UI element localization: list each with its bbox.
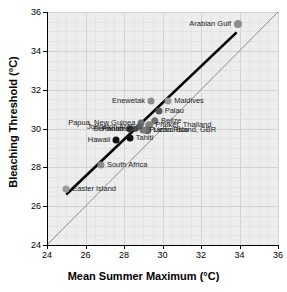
y-axis-tick (43, 12, 47, 13)
y-axis-tick (43, 129, 47, 130)
data-point (113, 137, 120, 144)
x-axis-tick-label: 26 (80, 250, 90, 260)
data-point (147, 98, 154, 105)
data-point-label: South Africa (107, 162, 147, 170)
data-point (155, 108, 162, 115)
y-axis-tick-label: 30 (23, 124, 41, 134)
y-axis-tick-label: 36 (23, 7, 41, 17)
scatter-plot-figure: Arabian GulfEnewetakMaldivesPalauBelizeP… (0, 0, 287, 292)
y-axis-tick (43, 90, 47, 91)
x-axis-tick (86, 245, 87, 249)
data-point (63, 185, 70, 192)
data-point (234, 20, 242, 28)
x-axis-tick-label: 34 (234, 250, 244, 260)
y-axis-tick (43, 245, 47, 246)
x-axis-tick-label: 32 (196, 250, 206, 260)
data-point-label: Hawaii (88, 136, 111, 144)
data-point (165, 98, 172, 105)
x-axis-tick (47, 245, 48, 249)
x-axis-tick-label: 30 (157, 250, 167, 260)
y-axis-tick-label: 24 (23, 240, 41, 250)
y-axis-title: Bleaching Threshold (°C) (7, 6, 19, 239)
x-axis-title: Mean Summer Maximum (°C) (0, 270, 287, 282)
data-point-label: Palau (165, 107, 184, 115)
y-axis-tick (43, 167, 47, 168)
data-point-label: Easter Island (72, 185, 116, 193)
data-point-label: Tahiti (136, 134, 154, 142)
y-axis-tick-label: 26 (23, 201, 41, 211)
data-point (126, 135, 133, 142)
x-axis-tick-label: 36 (273, 250, 283, 260)
data-point (97, 162, 104, 169)
data-point-label: Maldives (174, 98, 204, 106)
x-axis-tick-label: 28 (119, 250, 129, 260)
x-axis-tick-label: 24 (42, 250, 52, 260)
x-axis-tick (163, 245, 164, 249)
plot-area: Arabian GulfEnewetakMaldivesPalauBelizeP… (47, 12, 278, 245)
x-axis-tick (240, 245, 241, 249)
y-axis-line (47, 12, 48, 245)
data-point-label: Puerto Rico (149, 127, 188, 135)
y-axis-tick-label: 34 (23, 46, 41, 56)
y-axis-tick-label: 28 (23, 162, 41, 172)
y-axis-tick-label: 32 (23, 85, 41, 95)
x-axis-tick (124, 245, 125, 249)
y-axis-tick (43, 206, 47, 207)
x-axis-tick (201, 245, 202, 249)
data-point-label: Enewetak (112, 98, 145, 106)
gridline-vertical-major (278, 12, 279, 245)
data-point-label: Bermuda (93, 125, 123, 133)
x-axis-tick (278, 245, 279, 249)
data-point-label: Arabian Gulf (189, 20, 231, 28)
y-axis-tick (43, 51, 47, 52)
regression-line (66, 32, 236, 194)
